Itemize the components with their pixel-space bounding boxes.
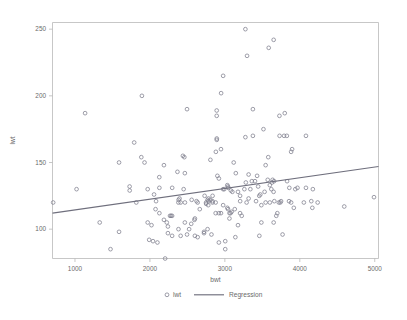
scatter-point bbox=[264, 163, 268, 167]
scatter-point bbox=[151, 239, 155, 243]
scatter-plot: 10002000300040005000 100150200250 bwt lw… bbox=[0, 0, 407, 320]
scatter-point bbox=[304, 134, 308, 138]
scatter-point bbox=[244, 27, 248, 31]
x-tick-label: 4000 bbox=[293, 265, 308, 272]
x-tick-label: 5000 bbox=[368, 265, 383, 272]
scatter-point bbox=[234, 171, 238, 175]
scatter-point bbox=[185, 233, 189, 237]
scatter-point bbox=[154, 199, 158, 203]
scatter-point bbox=[278, 134, 282, 138]
scatter-point bbox=[75, 187, 79, 191]
scatter-point bbox=[309, 199, 313, 203]
scatter-point bbox=[217, 241, 221, 245]
scatter-point bbox=[372, 195, 376, 199]
scatter-point bbox=[170, 186, 174, 190]
x-axis-ticks bbox=[75, 259, 375, 263]
legend-label-lwt: lwt bbox=[173, 291, 181, 298]
scatter-point bbox=[166, 231, 170, 235]
scatter-point bbox=[236, 223, 240, 227]
scatter-point bbox=[236, 190, 240, 194]
scatter-point bbox=[177, 227, 181, 231]
x-axis-title: bwt bbox=[210, 276, 220, 283]
scatter-point bbox=[210, 233, 214, 237]
scatter-point bbox=[247, 197, 251, 201]
scatter-point bbox=[311, 187, 315, 191]
scatter-point bbox=[272, 38, 276, 42]
scatter-point bbox=[140, 94, 144, 98]
scatter-point bbox=[251, 134, 255, 138]
scatter-point bbox=[254, 199, 258, 203]
chart-figure: 10002000300040005000 100150200250 bwt lw… bbox=[0, 0, 407, 320]
scatter-point bbox=[292, 206, 296, 210]
scatter-point bbox=[251, 107, 255, 111]
scatter-point bbox=[302, 201, 306, 205]
scatter-point bbox=[244, 181, 248, 185]
scatter-point bbox=[146, 187, 150, 191]
chart-legend: lwt Regression bbox=[165, 291, 263, 299]
scatter-point bbox=[203, 194, 207, 198]
scatter-point bbox=[117, 161, 121, 165]
y-axis-ticks bbox=[49, 29, 53, 229]
legend-marker-lwt bbox=[165, 293, 169, 297]
scatter-point bbox=[232, 161, 236, 165]
scatter-point bbox=[190, 198, 194, 202]
scatter-point bbox=[98, 221, 102, 225]
regression-line bbox=[53, 167, 379, 214]
scatter-point bbox=[152, 193, 156, 197]
scatter-point bbox=[219, 147, 223, 151]
scatter-point bbox=[183, 221, 187, 225]
scatter-point bbox=[244, 135, 248, 139]
scatter-point bbox=[117, 230, 121, 234]
scatter-point bbox=[143, 161, 147, 165]
scatter-point bbox=[128, 189, 132, 193]
scatter-point bbox=[257, 234, 261, 238]
scatter-point bbox=[342, 205, 346, 209]
y-axis-title: lwt bbox=[9, 136, 16, 144]
scatter-point bbox=[183, 171, 187, 175]
scatter-point bbox=[221, 74, 225, 78]
scatter-point bbox=[166, 225, 170, 229]
scatter-point bbox=[266, 155, 270, 159]
scatter-point bbox=[245, 201, 249, 205]
scatter-point bbox=[272, 190, 276, 194]
y-tick-label: 250 bbox=[35, 25, 46, 32]
scatter-point bbox=[147, 238, 151, 242]
scatter-point bbox=[83, 111, 87, 115]
x-tick-label: 3000 bbox=[218, 265, 233, 272]
x-tick-label: 2000 bbox=[143, 265, 158, 272]
scatter-point bbox=[283, 111, 287, 115]
scatter-point bbox=[156, 241, 160, 245]
scatter-point bbox=[287, 186, 291, 190]
scatter-point bbox=[162, 163, 166, 167]
scatter-point bbox=[267, 46, 271, 50]
scatter-point bbox=[157, 175, 161, 179]
y-axis-tick-labels: 100150200250 bbox=[35, 25, 46, 232]
scatter-point bbox=[223, 239, 227, 243]
scatter-point bbox=[183, 201, 187, 205]
scatter-point bbox=[260, 203, 264, 207]
scatter-point bbox=[128, 185, 132, 189]
scatter-point bbox=[221, 203, 225, 207]
y-tick-label: 150 bbox=[35, 159, 46, 166]
scatter-point bbox=[233, 207, 237, 211]
scatter-point bbox=[132, 141, 136, 145]
scatter-point bbox=[215, 114, 219, 118]
scatter-point bbox=[179, 201, 183, 205]
scatter-point bbox=[187, 227, 191, 231]
scatter-point bbox=[304, 186, 308, 190]
scatter-point bbox=[260, 221, 264, 225]
scatter-point bbox=[278, 114, 282, 118]
scatter-point bbox=[247, 173, 251, 177]
scatter-point bbox=[264, 201, 268, 205]
scatter-point bbox=[158, 186, 162, 190]
scatter-point bbox=[165, 221, 169, 225]
x-axis-tick-labels: 10002000300040005000 bbox=[68, 265, 382, 272]
scatter-point bbox=[262, 127, 266, 131]
scatter-markers bbox=[51, 27, 376, 260]
y-tick-label: 100 bbox=[35, 225, 46, 232]
scatter-point bbox=[179, 234, 183, 238]
scatter-point bbox=[176, 170, 180, 174]
scatter-point bbox=[214, 150, 218, 154]
scatter-point bbox=[198, 207, 202, 211]
legend-label-regression: Regression bbox=[229, 291, 263, 299]
